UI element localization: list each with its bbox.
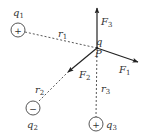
charge-q3-label: q3	[106, 119, 117, 132]
point-q-label: q	[96, 36, 102, 47]
point-p-label: P	[94, 48, 102, 59]
charge-q3-sign: +	[92, 120, 100, 130]
charge-q1-label: q1	[13, 7, 24, 20]
f1-label: F1	[118, 64, 130, 77]
f1-arrow	[97, 48, 138, 62]
r2-label: r2	[35, 84, 44, 97]
f3-label: F3	[100, 16, 112, 29]
r3-label: r3	[101, 83, 110, 96]
force-diagram: + q1 r1 − q2 r2 + q3 r3 q P F3 F1 F2	[0, 0, 150, 135]
charge-q2-label: q2	[27, 119, 38, 132]
r1-label: r1	[58, 28, 67, 41]
charge-q2-sign: −	[29, 104, 37, 114]
charge-q1-sign: +	[14, 26, 22, 36]
f2-label: F2	[78, 69, 90, 82]
